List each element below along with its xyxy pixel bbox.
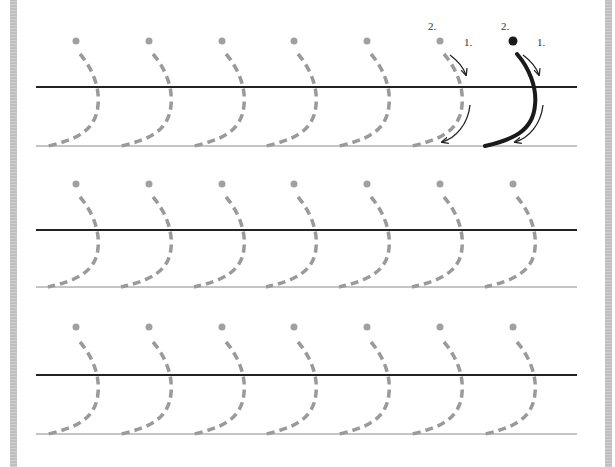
tracing-row-2 [36,181,577,288]
dashed-guide-glyph [194,181,244,288]
start-dot [510,181,517,188]
dashed-guide-glyph [412,324,462,435]
step-2-label: 2. [501,20,510,32]
dashed-guide-glyph: 2.1. [412,20,473,146]
dashed-guide-glyph [266,38,316,147]
start-dot [364,38,371,45]
start-dot [291,324,298,331]
dashed-stroke [266,54,316,146]
dashed-stroke [121,54,171,146]
start-dot [364,181,371,188]
start-dot [364,324,371,331]
dashed-guide-glyph [194,324,244,435]
start-dot [437,181,444,188]
dashed-guide-glyph [339,38,389,147]
dashed-stroke [485,342,535,434]
dashed-guide-glyph [121,181,171,288]
dashed-stroke [194,197,244,287]
start-dot [437,38,444,45]
dashed-guide-glyph [121,38,171,147]
dashed-stroke [266,342,316,434]
dashed-stroke [412,54,462,146]
dashed-stroke [339,197,389,287]
dashed-stroke [121,342,171,434]
dashed-stroke [194,342,244,434]
step-1-label: 1. [537,36,546,48]
dashed-stroke [339,54,389,146]
dashed-guide-glyph [194,38,244,147]
dashed-guide-glyph [485,181,535,288]
direction-arrow-curve [442,105,470,142]
dashed-guide-glyph [339,324,389,435]
example-glyph: 2.1. [485,20,546,146]
tracing-row-1: 2.1.2.1. [36,20,577,146]
start-dot [73,324,80,331]
start-dot-solid [509,37,518,46]
dashed-stroke [48,197,98,287]
start-dot [146,38,153,45]
dashed-guide-glyph [339,181,389,288]
dashed-stroke [48,54,98,146]
dashed-stroke [121,197,171,287]
dashed-stroke [266,197,316,287]
dashed-guide-glyph [266,324,316,435]
dashed-stroke [339,342,389,434]
step-2-label: 2. [428,20,437,32]
start-dot [219,181,226,188]
start-dot [73,181,80,188]
start-dot [146,181,153,188]
start-dot [291,38,298,45]
dashed-guide-glyph [48,38,98,147]
step-1-label: 1. [464,36,473,48]
dashed-stroke [194,54,244,146]
dashed-guide-glyph [485,324,535,435]
tracing-sheet: 2.1.2.1. [0,0,615,467]
dashed-guide-glyph [412,181,462,288]
start-dot [437,324,444,331]
start-dot [146,324,153,331]
start-dot [219,324,226,331]
start-dot [219,38,226,45]
dashed-stroke [48,342,98,434]
dashed-stroke [412,197,462,287]
start-dot [291,181,298,188]
dashed-guide-glyph [121,324,171,435]
start-dot [73,38,80,45]
solid-stroke [485,54,535,146]
start-dot [510,324,517,331]
tracing-row-3 [36,324,577,435]
dashed-stroke [485,197,535,287]
dashed-stroke [412,342,462,434]
dashed-guide-glyph [48,181,98,288]
dashed-guide-glyph [266,181,316,288]
dashed-guide-glyph [48,324,98,435]
